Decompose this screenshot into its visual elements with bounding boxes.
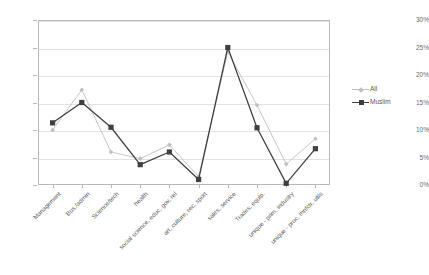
data-point xyxy=(109,150,114,155)
data-point xyxy=(167,149,172,154)
legend-swatch-icon xyxy=(352,85,369,95)
legend-item-all[interactable]: All xyxy=(352,83,391,96)
chart-legend: AllMuslim xyxy=(352,83,391,109)
data-point xyxy=(225,45,230,50)
data-point xyxy=(196,177,201,182)
legend-swatch-icon xyxy=(352,98,369,108)
legend-item-muslim[interactable]: Muslim xyxy=(352,96,391,109)
data-point xyxy=(313,146,318,151)
data-point xyxy=(138,162,143,167)
series-line xyxy=(53,52,316,177)
data-point xyxy=(50,120,55,125)
data-point xyxy=(79,100,84,105)
data-point xyxy=(108,125,113,130)
series-muslim xyxy=(50,45,318,186)
series-all xyxy=(50,50,317,179)
data-series-layer xyxy=(0,0,429,275)
series-line xyxy=(53,48,316,184)
data-point xyxy=(138,156,143,161)
legend-label: Muslim xyxy=(370,99,391,106)
legend-label: All xyxy=(370,86,377,93)
data-point xyxy=(284,181,289,186)
data-point xyxy=(255,103,260,108)
chart-container: 30%25%20%15%10%5%0% ManagementBus./admin… xyxy=(0,0,429,275)
data-point xyxy=(254,125,259,130)
